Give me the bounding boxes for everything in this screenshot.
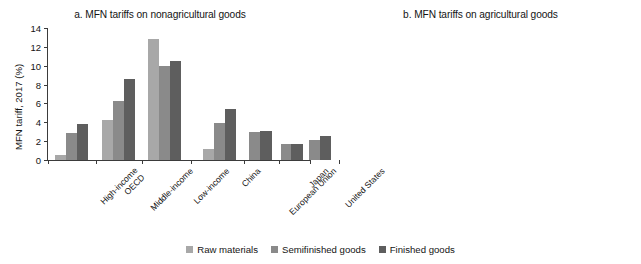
y-tick-label: 6 bbox=[36, 98, 41, 109]
x-tick-mark bbox=[191, 160, 192, 164]
x-tick-mark bbox=[279, 160, 280, 164]
y-tick-label: 12 bbox=[30, 41, 41, 52]
x-tick-label: Low-income bbox=[192, 166, 232, 206]
bar bbox=[102, 120, 113, 160]
y-tick-mark bbox=[44, 85, 48, 86]
x-tick-mark bbox=[244, 160, 245, 164]
legend-swatch-icon bbox=[271, 246, 278, 253]
y-tick-label: 0 bbox=[36, 155, 41, 166]
bar bbox=[77, 124, 88, 160]
x-tick-mark bbox=[48, 160, 49, 164]
y-tick-label: 2 bbox=[36, 136, 41, 147]
bar bbox=[249, 132, 260, 160]
bar bbox=[214, 123, 225, 160]
panel-b-title: b. MFN tariffs on agricultural goods bbox=[320, 9, 641, 20]
y-tick-mark bbox=[44, 141, 48, 142]
y-tick-mark bbox=[44, 122, 48, 123]
y-tick-label: 10 bbox=[30, 60, 41, 71]
bar bbox=[113, 101, 124, 160]
panel-a-title: a. MFN tariffs on nonagricultural goods bbox=[0, 9, 320, 20]
legend-label: Semifinished goods bbox=[282, 244, 366, 255]
bar bbox=[148, 39, 159, 160]
y-tick-label: 8 bbox=[36, 79, 41, 90]
bar bbox=[203, 149, 214, 160]
y-tick-label: 14 bbox=[30, 23, 41, 34]
x-tick-label-line: Low-income bbox=[192, 166, 232, 206]
legend-item: Semifinished goods bbox=[271, 244, 366, 255]
bar bbox=[309, 140, 320, 160]
bar bbox=[159, 66, 170, 160]
x-tick-mark bbox=[310, 160, 311, 164]
chart-panel-a: a. MFN tariffs on nonagricultural goods … bbox=[0, 0, 320, 236]
legend-label: Raw materials bbox=[197, 244, 258, 255]
y-tick-mark bbox=[44, 103, 48, 104]
x-tick-label: China bbox=[240, 166, 263, 189]
bar bbox=[55, 155, 66, 160]
x-tick-label-line: China bbox=[240, 166, 263, 189]
x-tick-label: Middle-income bbox=[148, 166, 195, 213]
figure: a. MFN tariffs on nonagricultural goods … bbox=[0, 0, 641, 264]
bar bbox=[281, 144, 292, 160]
panel-a-y-axis-label: MFN tariff, 2017 (%) bbox=[13, 64, 24, 150]
legend-label: Finished goods bbox=[390, 244, 455, 255]
bar bbox=[124, 79, 135, 160]
legend-swatch-icon bbox=[186, 246, 193, 253]
x-tick-label-line: Middle-income bbox=[148, 166, 195, 213]
bar bbox=[260, 131, 271, 160]
legend-item: Finished goods bbox=[379, 244, 455, 255]
bar bbox=[291, 144, 302, 160]
bar bbox=[66, 133, 77, 160]
x-tick-mark bbox=[96, 160, 97, 164]
bar bbox=[225, 109, 236, 160]
y-tick-mark bbox=[44, 47, 48, 48]
y-tick-mark bbox=[44, 28, 48, 29]
bar bbox=[170, 61, 181, 160]
y-tick-mark bbox=[44, 66, 48, 67]
panel-a-plot-area: 02468101214High-incomeOECDMiddle-incomeL… bbox=[47, 28, 310, 161]
chart-legend: Raw materialsSemifinished goodsFinished … bbox=[0, 238, 641, 260]
x-tick-mark bbox=[142, 160, 143, 164]
legend-item: Raw materials bbox=[186, 244, 258, 255]
legend-swatch-icon bbox=[379, 246, 386, 253]
y-tick-label: 4 bbox=[36, 117, 41, 128]
x-tick-label: High-incomeOECD bbox=[100, 166, 148, 214]
chart-panel-b: b. MFN tariffs on agricultural goods MFN… bbox=[320, 0, 641, 236]
